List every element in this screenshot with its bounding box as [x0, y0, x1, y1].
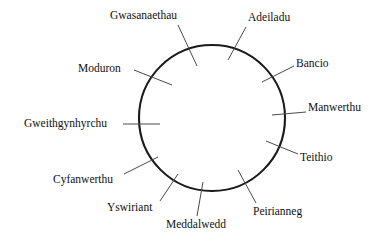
- pie-chart-figure: GwasanaethauAdeiladuBancioManwerthuTeith…: [0, 0, 392, 244]
- pie-label-cyfanwerthu: Cyfanwerthu: [53, 174, 113, 186]
- pie-label-peirianneg: Peirianneg: [253, 206, 302, 218]
- pie-label-adeiladu: Adeiladu: [248, 12, 290, 24]
- pie-label-manwerthu: Manwerthu: [308, 102, 361, 114]
- pie-label-yswiriant: Yswiriant: [107, 202, 152, 214]
- pie-label-moduron: Moduron: [78, 63, 121, 75]
- pie-outline-circle: [139, 45, 285, 191]
- pie-label-gweithgynhyrchu: Gweithgynhyrchu: [24, 118, 107, 130]
- pie-label-meddalwedd: Meddalwedd: [166, 219, 226, 231]
- leader-line-cyfanwerthu: [124, 157, 158, 174]
- pie-label-bancio: Bancio: [296, 58, 329, 70]
- pie-label-teithio: Teithio: [300, 152, 332, 164]
- pie-label-gwasanaethau: Gwasanaethau: [110, 10, 177, 22]
